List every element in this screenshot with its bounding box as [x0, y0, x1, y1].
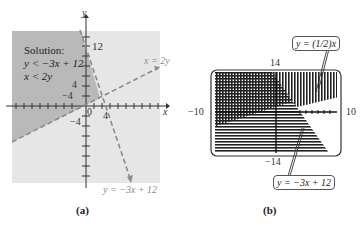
caption-b: (b) [263, 204, 276, 216]
y-tick-4: 4 [72, 79, 77, 90]
x-axis-label: x [163, 106, 167, 117]
window-ymax: 14 [270, 57, 280, 68]
y-tick-neg4: −4 [70, 116, 81, 127]
y-axis-label: y [82, 7, 86, 18]
callout-neg3x-plus-12: y = −3x + 12 [273, 175, 335, 190]
window-ymin: −14 [265, 156, 281, 167]
figure-canvas [0, 0, 363, 226]
x-tick-4: 4 [103, 110, 108, 121]
y-tick-12: 12 [92, 40, 103, 52]
panel-a-graph [6, 14, 170, 188]
line-label-x-eq-2y: x = 2y [144, 55, 170, 66]
origin-label: 0 [87, 106, 92, 117]
solution-inequality-1: y < −3x + 12 [24, 57, 84, 70]
window-xmin: −10 [188, 106, 204, 117]
window-xmax: 10 [346, 106, 356, 117]
callout-half-x: y = (1/2)x [292, 36, 340, 51]
caption-a: (a) [76, 204, 89, 216]
line-label-y-eq-neg3x-plus-12: y = −3x + 12 [103, 184, 157, 195]
solution-annotation: Solution: y < −3x + 12 x < 2y [24, 44, 84, 83]
solution-title: Solution: [24, 44, 84, 57]
x-tick-neg4: −4 [62, 90, 73, 101]
